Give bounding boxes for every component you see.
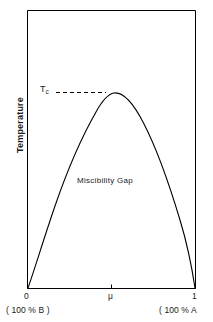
critical-temperature-label: Tc bbox=[40, 84, 49, 95]
composition-label-right: ( 100 % A bbox=[159, 305, 197, 315]
y-axis-title: Temperature bbox=[15, 75, 25, 175]
plot-frame bbox=[28, 11, 196, 289]
critical-temperature-subscript: c bbox=[46, 88, 49, 95]
miscibility-gap-figure: Temperature Tc Miscibility Gap 0 μ 1 ( 1… bbox=[0, 0, 213, 322]
xtick-label-one: 1 bbox=[192, 291, 197, 301]
composition-label-left: ( 100 % B ) bbox=[6, 305, 50, 315]
plot-area bbox=[0, 0, 213, 322]
xtick-label-zero: 0 bbox=[24, 291, 29, 301]
xtick-label-mu: μ bbox=[108, 291, 113, 301]
miscibility-gap-label: Miscibility Gap bbox=[55, 176, 155, 185]
binodal-curve bbox=[28, 93, 195, 288]
